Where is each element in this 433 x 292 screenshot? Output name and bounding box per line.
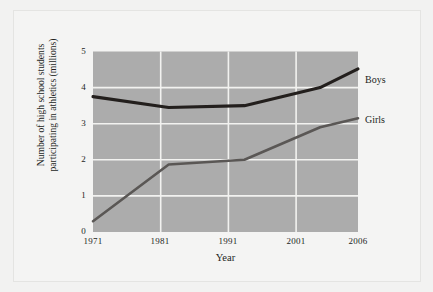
x-axis-title: Year: [93, 252, 358, 263]
y-tick-5: 5: [70, 46, 86, 56]
y-tick-0: 0: [70, 226, 86, 236]
y-axis-title-line2: participating in athletics (millions): [47, 39, 58, 172]
line-chart-plot: [0, 0, 433, 292]
y-tick-2: 2: [70, 154, 86, 164]
y-tick-4: 4: [70, 82, 86, 92]
y-tick-3: 3: [70, 118, 86, 128]
chart-figure: 5 4 3 2 1 0 1971 1981 1991 2001 2006 Yea…: [0, 0, 433, 292]
x-tick-2001: 2001: [276, 236, 316, 246]
x-tick-2006: 2006: [338, 236, 378, 246]
x-tick-1971: 1971: [73, 236, 113, 246]
y-axis-title-line1: Number of high school students: [35, 44, 46, 167]
y-tick-1: 1: [70, 190, 86, 200]
x-tick-1991: 1991: [208, 236, 248, 246]
plot-background: [93, 52, 358, 233]
legend-label-boys: Boys: [365, 74, 386, 85]
legend-label-girls: Girls: [365, 114, 385, 125]
x-tick-1981: 1981: [140, 236, 180, 246]
y-axis-title: Number of high school students participa…: [35, 10, 59, 200]
